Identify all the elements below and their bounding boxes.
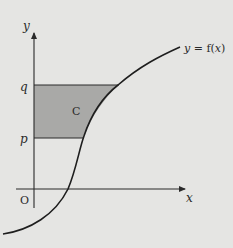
q-label: q <box>20 80 28 94</box>
p-label: p <box>20 132 28 146</box>
curve-f-of-x <box>3 47 180 234</box>
y-axis-label: y <box>22 19 30 33</box>
origin-label: O <box>20 194 29 207</box>
curve-label: y = f(x) <box>183 42 225 55</box>
region-c-label: C <box>72 105 80 118</box>
x-axis-label: x <box>186 191 193 205</box>
function-area-diagram: y x O q p C y = f(x) <box>0 0 233 248</box>
